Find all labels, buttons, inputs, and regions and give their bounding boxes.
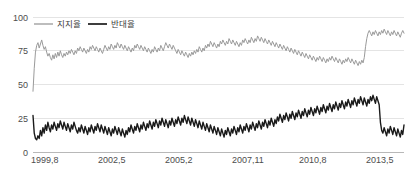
line-chart: 0255075100 1999,82002,52005,22007,112010…	[0, 0, 409, 173]
y-axis-tick-label: 50	[18, 80, 28, 90]
y-axis-tick-label: 100	[13, 13, 28, 23]
x-axis-tick-label: 2007,11	[232, 155, 264, 165]
chart-legend: 지지율반대율	[34, 19, 135, 29]
x-axis-tick-label: 2005,2	[165, 155, 193, 165]
y-axis-tick-label: 25	[18, 114, 28, 124]
y-axis-tick-label: 75	[18, 46, 28, 56]
legend-label-지지율: 지지율	[57, 19, 81, 29]
series-line-반대율	[33, 95, 404, 140]
x-axis-tick-labels: 1999,82002,52005,22007,112010,82013,5	[31, 155, 394, 165]
x-axis-tick-label: 2010,8	[299, 155, 327, 165]
x-axis-tick-label: 1999,8	[31, 155, 59, 165]
legend-label-반대율: 반대율	[111, 19, 135, 29]
series-line-지지율	[33, 29, 404, 91]
y-axis-tick-labels: 0255075100	[13, 13, 28, 158]
chart-container: 0255075100 1999,82002,52005,22007,112010…	[0, 0, 409, 173]
x-axis-tick-label: 2002,5	[98, 155, 126, 165]
y-axis-tick-label: 0	[23, 148, 28, 158]
x-axis-tick-label: 2013,5	[366, 155, 394, 165]
